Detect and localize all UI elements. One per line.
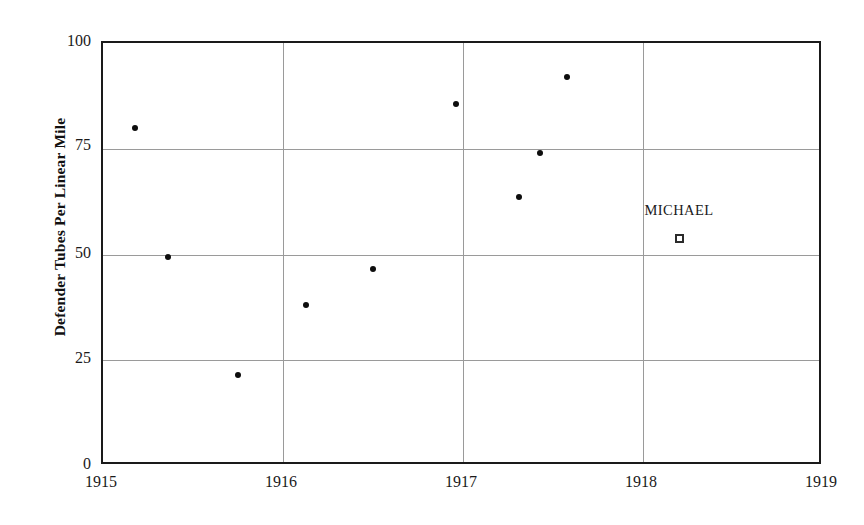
plot-area: MICHAEL bbox=[101, 41, 821, 464]
y-tick-label: 25 bbox=[75, 349, 91, 367]
x-tick-label: 1917 bbox=[445, 473, 477, 491]
chart-page: Defender Tubes Per Linear Mile 100 75 50… bbox=[0, 0, 864, 525]
data-point bbox=[370, 266, 376, 272]
gridline-vertical bbox=[643, 43, 644, 462]
gridline-horizontal bbox=[103, 255, 819, 256]
data-point bbox=[132, 125, 138, 131]
x-tick-label: 1919 bbox=[805, 473, 837, 491]
data-point bbox=[303, 302, 309, 308]
gridline-vertical bbox=[463, 43, 464, 462]
point-annotation-label: MICHAEL bbox=[645, 202, 714, 219]
x-tick-label: 1918 bbox=[625, 473, 657, 491]
gridline-horizontal bbox=[103, 149, 819, 150]
y-tick-label: 100 bbox=[67, 32, 91, 50]
data-point bbox=[516, 194, 522, 200]
gridline-horizontal bbox=[103, 360, 819, 361]
y-axis-tick-labels: 100 75 50 25 0 bbox=[46, 0, 91, 525]
x-tick-label: 1916 bbox=[265, 473, 297, 491]
data-point bbox=[165, 254, 171, 260]
y-tick-label: 50 bbox=[75, 244, 91, 262]
data-point bbox=[675, 234, 684, 243]
data-point bbox=[537, 150, 543, 156]
gridline-vertical bbox=[283, 43, 284, 462]
x-tick-label: 1915 bbox=[85, 473, 117, 491]
data-point bbox=[564, 74, 570, 80]
y-tick-label: 75 bbox=[75, 136, 91, 154]
y-tick-label: 0 bbox=[83, 455, 91, 473]
data-point bbox=[453, 101, 459, 107]
data-point bbox=[235, 372, 241, 378]
